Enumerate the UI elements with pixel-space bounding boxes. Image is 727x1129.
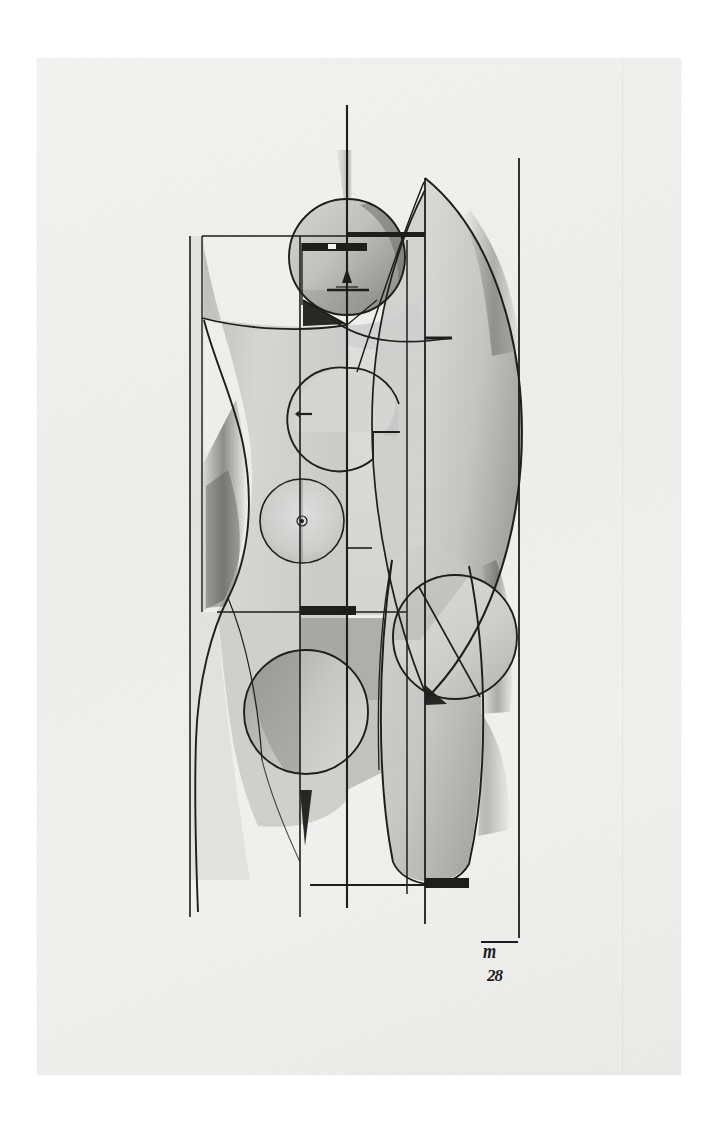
bar-mid-black xyxy=(300,606,356,615)
signature-monogram: m xyxy=(483,940,495,963)
eye-dot xyxy=(328,244,336,249)
signature-year: 28 xyxy=(487,966,502,986)
wash-layer xyxy=(190,150,523,882)
bar-top-right xyxy=(347,232,425,237)
artboard: m 28 Abstract Figure Composition ink and… xyxy=(0,0,727,1129)
bar-ground xyxy=(425,878,469,888)
drawing-canvas xyxy=(0,0,727,1129)
